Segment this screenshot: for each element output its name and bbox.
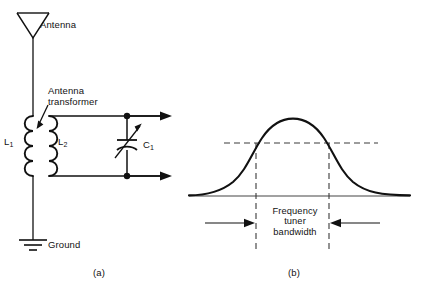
panel-b-caption: (b): [288, 268, 300, 279]
panel-a-caption: (a): [93, 268, 105, 279]
antenna-transformer-label-line1: Antenna: [48, 85, 84, 96]
capacitor-label: C1: [143, 140, 154, 152]
bandwidth-arrow-right-icon: [205, 219, 255, 227]
bandwidth-label-line3: bandwidth: [273, 227, 316, 237]
panel-a-circuit: [17, 13, 172, 250]
bandwidth-label-line1: Frequency: [273, 206, 318, 216]
capacitor-subscript: 1: [150, 144, 154, 151]
leader-arrow-icon: [37, 105, 48, 129]
coil-secondary-label: L2: [58, 137, 67, 149]
variable-capacitor-icon: [115, 116, 142, 176]
output-arrow-bottom-icon: [127, 171, 172, 180]
antenna-label: Antenna: [40, 20, 76, 31]
figure-root: Antenna Antennatransformer L1 L2 C1 Grou…: [0, 0, 421, 297]
coil-secondary-subscript: 2: [63, 141, 67, 148]
inductor-coil-primary-icon: [25, 116, 33, 176]
antenna-transformer-label-line2: transformer: [48, 96, 98, 107]
antenna-transformer-label: Antennatransformer: [48, 86, 98, 107]
inductor-coil-secondary-icon: [49, 116, 57, 176]
resonance-curve-icon: [189, 119, 410, 196]
bandwidth-label: Frequencytunerbandwidth: [252, 206, 338, 237]
capacitor-letter: C: [143, 139, 150, 150]
coil-primary-subscript: 1: [9, 141, 13, 148]
ground-icon: [19, 240, 47, 250]
ground-label: Ground: [48, 240, 80, 251]
coil-primary-label: L1: [4, 137, 13, 149]
bandwidth-label-line2: tuner: [284, 216, 306, 226]
output-arrow-top-icon: [127, 111, 172, 120]
